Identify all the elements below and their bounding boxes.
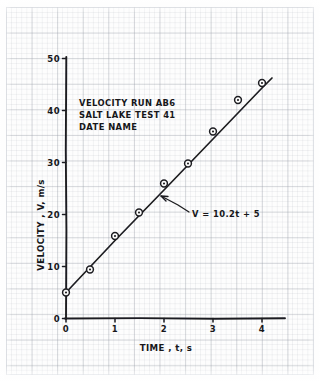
y-axis-tick-labels: 0 10 20 30 40 50: [47, 54, 60, 324]
x-tick-label: 0: [63, 324, 69, 334]
data-point: [210, 128, 217, 135]
y-tick-label: 10: [47, 262, 60, 272]
x-axis-title: TIME , t, s: [140, 343, 193, 353]
y-axis-title: VELOCITY , V, m/s: [36, 179, 46, 271]
title-block-line-1: VELOCITY RUN AB6: [79, 98, 176, 108]
hand-drawn-plot: 0 10 20 30 40 50 0 1 2 3 4 TIME , t, s V…: [0, 0, 320, 381]
y-tick-label: 40: [47, 106, 60, 116]
x-tick-label: 2: [161, 324, 167, 334]
title-block-line-2: SALT LAKE TEST 41: [79, 110, 176, 120]
equation-label: V = 10.2t + 5: [192, 209, 260, 219]
title-block: VELOCITY RUN AB6 SALT LAKE TEST 41 DATE …: [79, 98, 176, 132]
x-tick-label: 1: [112, 324, 118, 334]
data-point: [161, 180, 168, 187]
x-tick-label: 4: [259, 324, 265, 334]
data-point: [112, 233, 119, 240]
data-point: [87, 266, 94, 273]
x-tick-label: 3: [210, 324, 216, 334]
data-point: [136, 209, 143, 216]
y-tick-label: 50: [47, 54, 60, 64]
y-axis-line: [66, 57, 67, 319]
data-point: [63, 289, 70, 296]
title-block-line-3: DATE NAME: [79, 122, 137, 132]
data-point: [185, 160, 192, 167]
y-tick-label: 0: [54, 314, 60, 324]
y-tick-label: 30: [47, 158, 60, 168]
data-point: [259, 80, 266, 87]
data-point: [235, 97, 242, 104]
y-tick-label: 20: [47, 210, 60, 220]
equation-leader-line: [161, 196, 189, 212]
x-axis-tick-labels: 0 1 2 3 4: [63, 324, 265, 334]
graph-page: 0 10 20 30 40 50 0 1 2 3 4 TIME , t, s V…: [0, 0, 320, 381]
x-axis-line: [65, 318, 285, 319]
